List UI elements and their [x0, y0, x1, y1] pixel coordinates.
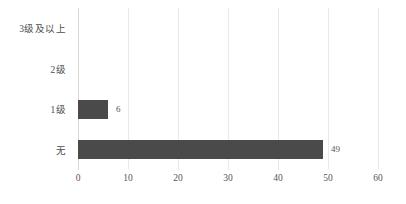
bar-row-wu: 49 — [78, 130, 378, 171]
bar-wu — [78, 140, 323, 159]
x-axis-tick-label-20: 20 — [173, 174, 183, 184]
x-axis-tick-label-40: 40 — [273, 174, 283, 184]
bar-value-wu: 49 — [331, 145, 340, 154]
y-axis-tick-3ji-jiyishang: 3级及以上 — [0, 8, 72, 49]
y-axis-label-wu: 无 — [56, 143, 72, 157]
y-axis-tick-2ji: 2级 — [0, 49, 72, 90]
bar-value-1ji: 6 — [116, 105, 121, 114]
bar-rows: 6 49 — [78, 8, 378, 170]
x-axis-tick-label-60: 60 — [373, 174, 383, 184]
y-axis-tick-1ji: 1级 — [0, 89, 72, 130]
x-axis-labels: 0 10 20 30 40 50 60 — [78, 174, 378, 194]
gridline-60 — [378, 8, 379, 170]
bar-row-3ji-jiyishang — [78, 8, 378, 49]
bar-row-1ji: 6 — [78, 89, 378, 130]
y-axis-label-1ji: 1级 — [50, 102, 72, 116]
bar-row-2ji — [78, 49, 378, 90]
x-axis-tick-label-50: 50 — [323, 174, 333, 184]
plot-area: 6 49 — [78, 8, 378, 170]
y-axis-label-2ji: 2级 — [50, 62, 72, 76]
y-axis-labels: 3级及以上 2级 1级 无 — [0, 8, 72, 170]
bar-chart: 6 49 3级及以上 2级 1级 无 0 10 20 30 40 50 60 — [0, 0, 406, 204]
y-axis-tick-wu: 无 — [0, 130, 72, 171]
y-axis-label-3ji-jiyishang: 3级及以上 — [19, 21, 72, 35]
bar-1ji — [78, 100, 108, 119]
x-axis-tick-label-10: 10 — [123, 174, 133, 184]
x-axis-tick-label-0: 0 — [76, 174, 81, 184]
x-axis-tick-label-30: 30 — [223, 174, 233, 184]
